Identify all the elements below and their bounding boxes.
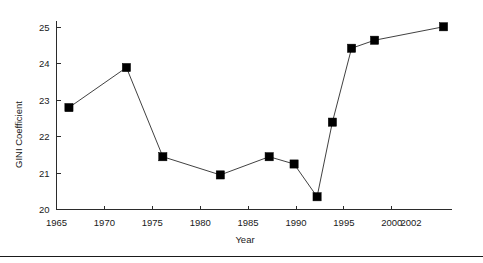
x-tick-label: 1985 — [238, 217, 259, 228]
y-tick-label: 22 — [39, 131, 50, 142]
x-axis-title: Year — [235, 234, 254, 245]
y-axis-title: GINI Coefficient — [13, 101, 24, 168]
data-point-marker — [265, 153, 273, 161]
x-axis: 196519701975198019851990199520002002 — [46, 206, 422, 228]
series-line — [69, 27, 444, 197]
x-tick-label: 1980 — [190, 217, 211, 228]
x-tick-label: 1990 — [285, 217, 306, 228]
data-point-marker — [347, 44, 355, 52]
x-tick-label: 2002 — [400, 217, 421, 228]
x-tick-label: 1975 — [142, 217, 163, 228]
data-point-marker — [370, 36, 378, 44]
x-tick-label: 2000 — [381, 217, 402, 228]
data-point-marker — [216, 171, 224, 179]
chart-figure: 202122232425 196519701975198019851990199… — [0, 0, 483, 263]
data-point-marker — [313, 193, 321, 201]
data-point-marker — [439, 23, 447, 31]
y-tick-label: 25 — [39, 22, 50, 33]
data-point-marker — [328, 118, 336, 126]
series-markers — [65, 23, 448, 201]
data-series-gini — [65, 23, 448, 201]
line-chart: 202122232425 196519701975198019851990199… — [0, 0, 483, 263]
x-tick-label: 1970 — [94, 217, 115, 228]
data-point-marker — [65, 103, 73, 111]
y-axis: 202122232425 — [39, 22, 61, 215]
y-tick-label: 20 — [39, 204, 50, 215]
y-tick-label: 23 — [39, 95, 50, 106]
data-point-marker — [122, 63, 130, 71]
data-point-marker — [159, 153, 167, 161]
y-tick-label: 21 — [39, 168, 50, 179]
x-tick-label: 1995 — [333, 217, 354, 228]
x-tick-label: 1965 — [46, 217, 67, 228]
data-point-marker — [290, 160, 298, 168]
y-tick-label: 24 — [39, 58, 50, 69]
